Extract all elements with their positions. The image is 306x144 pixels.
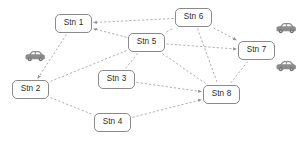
node-stn2[interactable]: Stn 2 — [12, 80, 49, 99]
node-stn4[interactable]: Stn 4 — [94, 113, 131, 132]
node-label: Stn 6 — [184, 13, 204, 21]
edge-stn7-stn8 — [230, 62, 248, 84]
edge-stn5-stn3 — [125, 54, 137, 69]
edge-stn3-stn8 — [137, 82, 202, 91]
edge-stn6-stn7 — [214, 28, 237, 40]
edge-stn4-stn8 — [133, 100, 202, 118]
car-icon — [24, 48, 46, 60]
edge-stn5-stn8 — [162, 54, 205, 84]
network-diagram: Stn 1Stn 2Stn 3Stn 4Stn 5Stn 6Stn 7Stn 8 — [0, 0, 306, 144]
edge-stn5-stn6 — [167, 28, 174, 32]
edge-stn5-stn1 — [94, 29, 127, 38]
edge-stn5-stn7 — [167, 44, 237, 49]
edge-stn6-stn1 — [94, 19, 174, 23]
node-stn5[interactable]: Stn 5 — [128, 33, 165, 52]
node-label: Stn 3 — [107, 75, 127, 83]
edge-stn6-stn8 — [198, 29, 218, 84]
car-icon — [275, 20, 297, 32]
car-icon — [275, 58, 297, 70]
node-stn6[interactable]: Stn 6 — [175, 8, 212, 27]
node-label: Stn 7 — [247, 46, 267, 54]
node-label: Stn 1 — [64, 19, 84, 27]
node-label: Stn 4 — [103, 118, 123, 126]
node-stn1[interactable]: Stn 1 — [55, 14, 92, 33]
node-label: Stn 8 — [212, 90, 232, 98]
diagram-edges-layer — [0, 0, 306, 144]
node-stn8[interactable]: Stn 8 — [203, 85, 240, 104]
node-label: Stn 2 — [21, 85, 41, 93]
node-label: Stn 5 — [137, 38, 157, 46]
edge-stn2-stn4 — [51, 98, 93, 115]
node-stn7[interactable]: Stn 7 — [238, 41, 275, 60]
node-stn3[interactable]: Stn 3 — [98, 70, 135, 89]
